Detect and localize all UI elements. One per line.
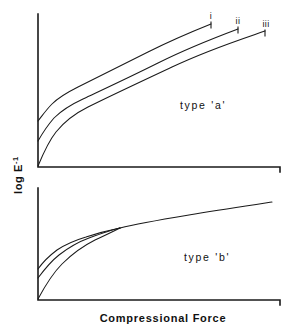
panel-annotation-type-b: type 'b' [184, 251, 230, 263]
chart-canvas: i ii iii type 'a' log E-1 type 'b' Compr… [0, 0, 299, 334]
upper-curve-ii [38, 29, 238, 141]
lower-curve-ii [38, 228, 120, 278]
curve-label-iii: iii [262, 19, 269, 29]
svg-text:log E-1: log E-1 [11, 156, 24, 194]
panel-annotation-type-a: type 'a' [180, 99, 226, 111]
upper-panel-axes [38, 14, 280, 172]
lower-panel-axes [38, 188, 280, 305]
curve-label-i: i [210, 11, 212, 21]
y-axis-title-base: log E [12, 164, 24, 194]
y-axis-title: log E-1 [11, 156, 24, 194]
x-axis-title: Compressional Force [100, 312, 227, 324]
y-axis-title-exponent: -1 [11, 156, 20, 164]
lower-curve-master [120, 202, 272, 228]
panel-lower-type-b: type 'b' [38, 188, 280, 305]
figure-root: i ii iii type 'a' log E-1 type 'b' Compr… [0, 0, 299, 334]
panel-upper-type-a: i ii iii type 'a' [38, 11, 280, 172]
upper-curve-iii [38, 31, 265, 166]
curve-label-ii: ii [236, 16, 241, 26]
